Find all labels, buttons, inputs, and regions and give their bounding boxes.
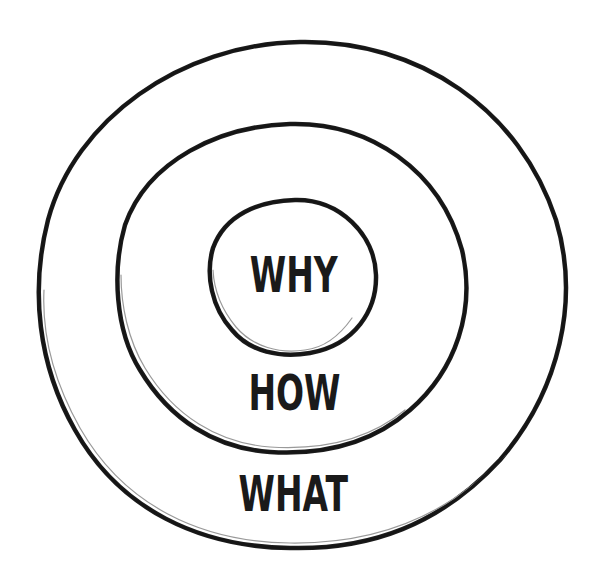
what-label: WHAT: [239, 469, 346, 519]
how-label: HOW: [248, 368, 335, 418]
why-label: WHY: [250, 250, 334, 300]
